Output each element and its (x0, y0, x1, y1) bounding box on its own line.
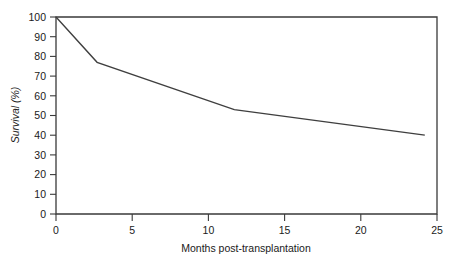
x-axis-title: Months post-transplantation (181, 242, 311, 254)
y-tick-label-80: 80 (34, 50, 46, 62)
y-tick-label-10: 10 (34, 188, 46, 200)
y-tick-label-70: 70 (34, 70, 46, 82)
y-tick-label-30: 30 (34, 149, 46, 161)
x-tick-label-10: 10 (203, 224, 215, 236)
y-tick-label-100: 100 (28, 11, 46, 23)
y-tick-label-50: 50 (34, 109, 46, 121)
x-tick-label-15: 15 (279, 224, 291, 236)
y-tick-label-40: 40 (34, 129, 46, 141)
survival-line (56, 17, 425, 135)
x-axis-ticks (56, 214, 437, 221)
y-tick-label-0: 0 (40, 208, 46, 220)
data-series-survival (56, 17, 425, 135)
x-tick-label-25: 25 (431, 224, 443, 236)
y-tick-label-20: 20 (34, 168, 46, 180)
x-axis-tick-labels: 0 5 10 15 20 25 (53, 224, 443, 236)
plot-frame (56, 17, 437, 214)
x-tick-label-20: 20 (355, 224, 367, 236)
y-axis-title: Survival (%) (9, 87, 21, 144)
x-tick-label-0: 0 (53, 224, 59, 236)
y-axis-tick-labels: 100 90 80 70 60 50 40 30 20 10 0 (28, 11, 46, 220)
frame-box (56, 17, 437, 214)
chart-canvas: 100 90 80 70 60 50 40 30 20 10 0 0 5 10 … (0, 0, 456, 268)
y-tick-label-60: 60 (34, 90, 46, 102)
survival-curve-figure: 100 90 80 70 60 50 40 30 20 10 0 0 5 10 … (0, 0, 456, 268)
y-tick-label-90: 90 (34, 31, 46, 43)
x-tick-label-5: 5 (129, 224, 135, 236)
y-axis-ticks (50, 17, 56, 214)
